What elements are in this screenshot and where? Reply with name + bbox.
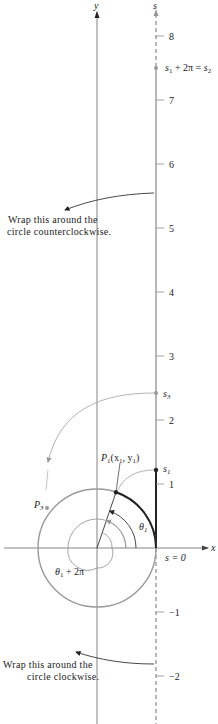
p3-label: P3 [33, 499, 44, 512]
point-s3 [154, 391, 158, 395]
arc-theta1 [116, 492, 156, 548]
tick-neg-2: −2 [169, 671, 180, 682]
s2-label: s1 + 2π = s2 [165, 62, 212, 75]
point-p3 [45, 506, 49, 510]
cw-note-line2: circle clockwise. [27, 671, 99, 682]
ccw-note-line2: circle counterclockwise. [7, 226, 111, 237]
cw-note-line1: Wrap this around the [3, 659, 93, 670]
x-axis-arrow-icon [202, 546, 209, 551]
y-axis [95, 11, 100, 724]
unit-circle-wrapping-diagram: 8 7 6 5 4 3 2 1 −1 −2 y s x P1(x1, y1) s… [0, 0, 218, 724]
tick-3: 3 [169, 351, 174, 362]
s1-label: s1 [163, 463, 170, 476]
tick-8: 8 [169, 31, 174, 42]
tick-6: 6 [169, 159, 174, 170]
tick-2: 2 [169, 415, 174, 426]
s3-label: s3 [163, 388, 171, 401]
y-axis-label: y [93, 0, 99, 11]
theta1-label: θ1 [139, 521, 147, 534]
x-axis-label: x [210, 542, 216, 553]
point-s1 [154, 468, 158, 472]
ccw-arrow [65, 193, 154, 210]
s-origin-label: s = 0 [165, 552, 186, 563]
s-axis-tick-labels: 8 7 6 5 4 3 2 1 −1 −2 [169, 31, 180, 682]
y-axis-arrow-icon [95, 11, 100, 18]
ccw-note-line1: Wrap this around the [8, 214, 98, 225]
s-axis-ticks [156, 36, 164, 676]
theta1-plus-2pi-label: θ1 + 2π [55, 566, 84, 579]
tick-4: 4 [169, 287, 174, 298]
p1-label: P1(x1, y1) [100, 452, 139, 465]
s-axis-label: s [153, 0, 157, 11]
point-s2 [154, 66, 158, 70]
tick-7: 7 [169, 95, 174, 106]
x-axis [4, 546, 209, 551]
theta1-angle-arc [110, 511, 136, 548]
s-axis [154, 9, 159, 724]
tick-5: 5 [169, 223, 174, 234]
tick-neg-1: −1 [169, 607, 180, 618]
tick-1: 1 [169, 479, 174, 490]
